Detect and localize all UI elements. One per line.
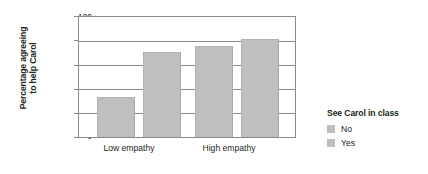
plot-area xyxy=(78,16,296,138)
bar-low-empathy-yes xyxy=(143,52,181,137)
y-axis-title: Percentage agreeing to help Carol xyxy=(13,0,43,138)
y-axis-title-line2: to help Carol xyxy=(28,42,39,93)
legend-swatch-no xyxy=(327,125,335,133)
bar-high-empathy-no xyxy=(195,46,233,137)
legend-item-yes: Yes xyxy=(327,137,425,149)
x-tick-label-high-empathy: High empathy xyxy=(178,143,280,153)
legend-swatch-yes xyxy=(327,139,335,147)
bar-low-empathy-no xyxy=(97,97,135,137)
bar-high-empathy-yes xyxy=(241,39,279,137)
legend-label-yes: Yes xyxy=(341,139,355,148)
legend-title: See Carol in class xyxy=(327,108,425,119)
x-tick-label-low-empathy: Low empathy xyxy=(78,143,180,153)
legend-label-no: No xyxy=(341,125,352,134)
y-axis-title-line1: Percentage agreeing xyxy=(18,27,29,110)
legend-item-no: No xyxy=(327,123,425,135)
bar-chart-figure: Percentage agreeing to help Carol 100 80… xyxy=(0,0,428,174)
legend: See Carol in class No Yes xyxy=(327,108,425,151)
